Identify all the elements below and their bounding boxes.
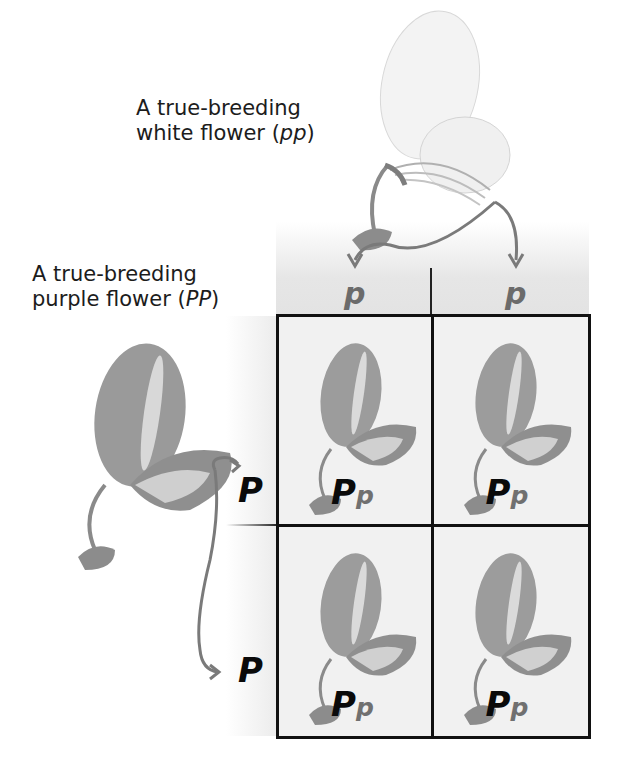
row-allele-1: P (238, 470, 263, 510)
white-parent-label-line1: A true-breeding (136, 96, 315, 121)
cell-genotype: Pp (331, 472, 374, 512)
cell-genotype: Pp (331, 684, 374, 724)
column-allele-1: p (344, 276, 365, 311)
row-allele-2: P (238, 650, 263, 690)
punnett-cell: Pp (434, 527, 589, 737)
purple-parent-label-line1: A true-breeding (32, 262, 219, 287)
cell-genotype: Pp (486, 472, 529, 512)
white-gamete-arrows (330, 190, 550, 280)
white-parent-label-line2: white flower (pp) (136, 121, 315, 146)
punnett-cell: Pp (279, 527, 434, 737)
white-parent-label: A true-breeding white flower (pp) (136, 96, 315, 146)
purple-parent-genotype: PP (186, 287, 211, 311)
punnett-square: Pp Pp Pp Pp (276, 314, 591, 739)
white-parent-genotype: pp (280, 121, 307, 145)
punnett-cell: Pp (434, 317, 589, 527)
cell-genotype: Pp (486, 684, 529, 724)
punnett-cell: Pp (279, 317, 434, 527)
purple-parent-label-line2: purple flower (PP) (32, 287, 219, 312)
column-allele-2: p (505, 276, 526, 311)
purple-parent-label: A true-breeding purple flower (PP) (32, 262, 219, 312)
